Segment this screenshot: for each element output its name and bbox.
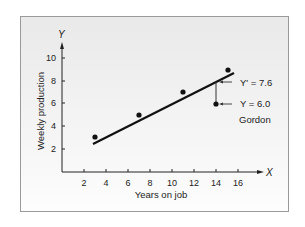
x-axis-arrow-icon <box>257 170 264 174</box>
y-tick-label: 2 <box>51 144 56 154</box>
x-tick-label: 12 <box>189 178 199 188</box>
data-points <box>92 67 230 139</box>
gordon-label: Gordon <box>239 114 271 125</box>
x-tick-label: 14 <box>211 178 221 188</box>
arrow-left-icon <box>219 103 223 106</box>
x-tick-label: 2 <box>81 178 86 188</box>
y-axis-arrow-icon <box>60 42 64 49</box>
x-tick-label: 16 <box>233 178 243 188</box>
y-tick-label: 6 <box>51 98 56 108</box>
x-tick-label: 10 <box>167 178 177 188</box>
predicted-value-label: Y' = 7.6 <box>240 77 272 88</box>
actual-value-label: Y = 6.0 <box>240 98 270 109</box>
y-tick-label: 4 <box>51 121 56 131</box>
y-axis-title: Weekly production <box>35 72 46 150</box>
x-tick-label: 4 <box>103 178 108 188</box>
data-point <box>180 89 185 94</box>
data-point <box>136 112 141 117</box>
data-point <box>225 67 230 72</box>
x-axis-title: Years on job <box>135 189 187 200</box>
data-point <box>92 134 97 139</box>
y-tick-label: 10 <box>46 53 56 63</box>
y-tick-label: 8 <box>51 76 56 86</box>
data-point-gordon <box>213 101 218 106</box>
annotation-arrows <box>219 81 232 106</box>
x-axis-letter: X <box>265 167 273 178</box>
scatter-chart: Y X 10 8 6 4 2 2 4 6 8 10 12 14 16 Years… <box>0 0 305 227</box>
regression-line <box>93 73 234 144</box>
x-tick-label: 8 <box>147 178 152 188</box>
y-axis-letter: Y <box>58 29 66 40</box>
x-tick-label: 6 <box>125 178 130 188</box>
